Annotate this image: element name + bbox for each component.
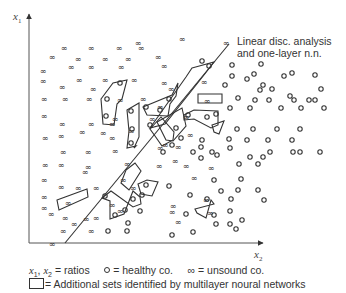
unsound-marker: ∞ xyxy=(83,215,90,224)
unsound-marker: ∞ xyxy=(62,95,69,104)
unsound-marker: ∞ xyxy=(90,85,97,94)
healthy-marker xyxy=(188,193,192,197)
unsound-marker: ∞ xyxy=(65,199,72,208)
healthy-marker xyxy=(126,221,130,225)
healthy-marker xyxy=(228,146,232,150)
healthy-marker xyxy=(248,106,252,110)
unsound-marker: ∞ xyxy=(157,144,164,153)
unsound-marker: ∞ xyxy=(59,83,66,92)
unsound-marker: ∞ xyxy=(172,157,179,166)
unsound-marker: ∞ xyxy=(208,164,215,173)
unsound-marker: ∞ xyxy=(125,55,132,64)
healthy-marker xyxy=(191,150,195,154)
unsound-marker: ∞ xyxy=(179,35,186,44)
healthy-marker xyxy=(290,71,294,75)
unsound-marker: ∞ xyxy=(168,85,175,94)
healthy-marker xyxy=(191,230,195,234)
healthy-circle-icon xyxy=(104,267,110,273)
healthy-marker xyxy=(245,138,249,142)
unsound-marker: ∞ xyxy=(58,161,65,170)
healthy-marker xyxy=(228,106,232,110)
unsound-marker: ∞ xyxy=(86,95,93,104)
unsound-marker: ∞ xyxy=(93,184,100,193)
healthy-marker xyxy=(266,138,270,142)
unsound-marker: ∞ xyxy=(112,115,119,124)
healthy-marker xyxy=(129,141,133,145)
healthy-marker xyxy=(288,94,292,98)
unsound-marker: ∞ xyxy=(191,174,198,183)
healthy-marker xyxy=(267,98,271,102)
healthy-marker xyxy=(214,222,218,226)
unsound-marker: ∞ xyxy=(109,134,116,143)
unsound-marker: ∞ xyxy=(204,97,211,106)
healthy-marker xyxy=(307,98,311,102)
unsound-marker: ∞ xyxy=(58,132,65,141)
nn-set-polygon xyxy=(212,121,224,134)
healthy-marker xyxy=(200,59,204,63)
healthy-marker xyxy=(205,115,209,119)
unsound-marker: ∞ xyxy=(60,148,67,157)
healthy-marker xyxy=(179,136,183,140)
unsound-marker: ∞ xyxy=(59,120,66,129)
unsound-marker: ∞ xyxy=(76,76,83,85)
healthy-marker xyxy=(259,62,263,66)
unsound-marker: ∞ xyxy=(135,39,142,48)
healthy-marker xyxy=(322,106,326,110)
unsound-marker: ∞ xyxy=(93,214,100,223)
healthy-marker xyxy=(251,127,255,131)
healthy-marker xyxy=(298,150,302,154)
healthy-marker xyxy=(256,188,260,192)
nn-sets xyxy=(57,62,224,219)
healthy-marker xyxy=(230,74,234,78)
healthy-marker xyxy=(319,87,323,91)
unsound-marker: ∞ xyxy=(201,78,208,87)
healthy-marker xyxy=(104,114,108,118)
healthy-marker xyxy=(299,106,303,110)
healthy-marker xyxy=(268,150,272,154)
unsound-marker: ∞ xyxy=(118,63,125,72)
unsound-marker: ∞ xyxy=(116,44,123,53)
unsound-marker: ∞ xyxy=(88,120,95,129)
healthy-marker xyxy=(228,222,232,226)
unsound-marker: ∞ xyxy=(88,63,95,72)
unsound-marker: ∞ xyxy=(155,53,162,62)
healthy-marker xyxy=(215,153,219,157)
healthy-marker xyxy=(229,197,233,201)
unsound-marker: ∞ xyxy=(40,67,47,76)
line-annotation: Linear disc. analysis and one-layer n.n. xyxy=(237,35,332,59)
y-axis-label: x1 xyxy=(13,10,21,25)
unsound-marker: ∞ xyxy=(75,184,82,193)
unsound-marker: ∞ xyxy=(88,227,95,236)
healthy-marker xyxy=(125,229,129,233)
healthy-marker xyxy=(129,109,133,113)
unsound-marker: ∞ xyxy=(42,134,49,143)
healthy-marker xyxy=(270,87,274,91)
healthy-marker xyxy=(106,229,110,233)
unsound-marker: ∞ xyxy=(41,176,48,185)
unsound-marker: ∞ xyxy=(117,207,124,216)
healthy-marker xyxy=(200,138,204,142)
unsound-marker: ∞ xyxy=(156,162,163,171)
unsound-marker: ∞ xyxy=(49,53,56,62)
unsound-infinity-icon: ∞ xyxy=(188,264,196,276)
healthy-marker xyxy=(256,162,260,166)
unsound-marker: ∞ xyxy=(149,115,156,124)
healthy-marker xyxy=(239,177,243,181)
unsound-marker: ∞ xyxy=(40,77,47,86)
unsound-marker: ∞ xyxy=(88,44,95,53)
unsound-marker: ∞ xyxy=(58,183,65,192)
unsound-marker: ∞ xyxy=(41,204,48,213)
healthy-marker xyxy=(237,162,241,166)
healthy-marker xyxy=(292,98,296,102)
healthy-marker xyxy=(275,127,279,131)
unsound-marker: ∞ xyxy=(223,39,230,48)
healthy-marker xyxy=(245,77,249,81)
healthy-marker xyxy=(138,209,142,213)
unsound-marker: ∞ xyxy=(170,202,177,211)
nn-set-polygon xyxy=(57,189,88,210)
legend-ratios: = ratios xyxy=(55,264,90,276)
healthy-marker xyxy=(236,96,240,100)
unsound-marker: ∞ xyxy=(109,201,116,210)
unsound-marker: ∞ xyxy=(140,95,147,104)
unsound-marker: ∞ xyxy=(112,147,119,156)
